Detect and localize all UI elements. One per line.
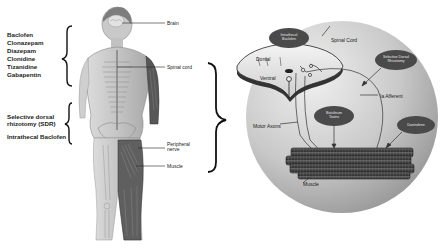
diagram-artwork: [0, 0, 445, 250]
brace-connector: [208, 63, 226, 172]
label-brain: Brain: [167, 20, 179, 26]
oval-text: Dantrolene: [400, 123, 432, 127]
oval-text: Baclofen: [272, 37, 306, 41]
label-peripheral-nerve: Peripheral nerve: [167, 142, 190, 152]
oval-text: Rhizotomy: [377, 59, 415, 63]
label-ventral: Ventral: [260, 75, 276, 81]
label-motor-axons: Motor Axons: [253, 123, 281, 129]
spasticity-treatment-diagram: Baclofen Clonazepam Diazepam Clonidine T…: [0, 0, 445, 250]
oval-label-dantrolene: Dantrolene: [400, 123, 432, 127]
label-dorsal: Dorsal: [256, 56, 270, 62]
oval-label-sdr: Selective Dorsal Rhizotomy: [377, 55, 415, 63]
oval-label-intrathecal-baclofen: Intrathecal Baclofen: [272, 33, 306, 41]
oval-text: Toxins: [317, 115, 351, 119]
human-figure-illustration: [79, 7, 165, 240]
label-peripheral-nerve-l2: nerve: [167, 147, 190, 152]
brace-surgical: [65, 103, 72, 144]
oval-label-botulinum: Botulinum Toxins: [317, 111, 351, 119]
label-spinal-cord-detail: Spinal Cord: [331, 37, 357, 43]
label-spinal-cord: Spinal cord: [167, 64, 192, 70]
muscle-fiber-bundle: [286, 148, 414, 179]
label-ia-afferent: Ia Afferent: [380, 93, 403, 99]
brace-pharmacologic: [62, 26, 72, 86]
label-muscle-detail: Muscle: [303, 181, 319, 187]
label-muscle: Muscle: [167, 163, 183, 169]
